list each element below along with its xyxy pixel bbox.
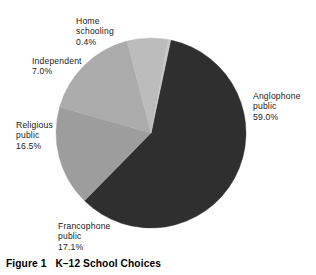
pie-label-anglophone-public-line1: Anglophone bbox=[253, 91, 301, 101]
pie-label-religious-public-value: 16.5% bbox=[16, 141, 53, 151]
pie-slice-group bbox=[56, 38, 246, 228]
figure-caption-title: K–12 School Choices bbox=[55, 258, 161, 269]
figure-container: Home schooling 0.4% Independent 7.0% Rel… bbox=[0, 0, 316, 275]
pie-label-religious-public-line1: Religious bbox=[16, 120, 53, 130]
pie-label-independent: Independent 7.0% bbox=[32, 56, 82, 77]
pie-label-anglophone-public: Anglophone public 59.0% bbox=[253, 91, 301, 122]
pie-label-anglophone-public-line2: public bbox=[253, 101, 301, 111]
pie-label-francophone-public: Francophone public 17.1% bbox=[58, 221, 111, 252]
pie-label-independent-line1: Independent bbox=[32, 56, 82, 66]
pie-label-francophone-public-line2: public bbox=[58, 231, 111, 241]
pie-label-anglophone-public-value: 59.0% bbox=[253, 112, 301, 122]
pie-label-religious-public: Religious public 16.5% bbox=[16, 120, 53, 151]
pie-label-home-schooling-line1: Home bbox=[76, 16, 114, 26]
pie-label-independent-value: 7.0% bbox=[32, 66, 82, 76]
figure-caption: Figure 1 K–12 School Choices bbox=[6, 258, 161, 269]
figure-caption-label: Figure 1 bbox=[6, 258, 46, 269]
pie-label-francophone-public-value: 17.1% bbox=[58, 242, 111, 252]
pie-label-home-schooling-value: 0.4% bbox=[76, 37, 114, 47]
pie-label-francophone-public-line1: Francophone bbox=[58, 221, 111, 231]
pie-label-home-schooling-line2: schooling bbox=[76, 26, 114, 36]
pie-label-religious-public-line2: public bbox=[16, 130, 53, 140]
pie-label-home-schooling: Home schooling 0.4% bbox=[76, 16, 114, 47]
